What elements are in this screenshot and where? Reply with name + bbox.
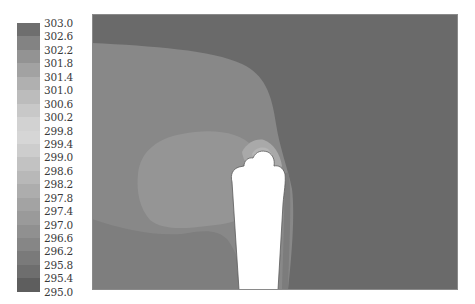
colorbar-tick-label: 297.0 (44, 219, 73, 232)
colorbar-tick-label: 295.0 (44, 286, 73, 299)
colorbar-labels: 303.0302.6302.2301.8301.4301.0300.6300.2… (44, 17, 73, 299)
colorbar-swatch (17, 23, 40, 36)
colorbar-swatch (17, 211, 40, 224)
colorbar-swatch (17, 225, 40, 238)
colorbar-tick-label: 297.8 (44, 192, 73, 205)
colorbar-legend: 303.0302.6302.2301.8301.4301.0300.6300.2… (17, 23, 77, 293)
colorbar-swatch (17, 36, 40, 49)
colorbar (17, 23, 40, 292)
colorbar-swatch (17, 77, 40, 90)
colorbar-swatch (17, 90, 40, 103)
contour-plot (92, 14, 458, 290)
colorbar-tick-label: 303.0 (44, 17, 73, 30)
colorbar-swatch (17, 171, 40, 184)
colorbar-tick-label: 300.2 (44, 111, 73, 124)
colorbar-swatch (17, 184, 40, 197)
colorbar-tick-label: 296.6 (44, 232, 73, 245)
colorbar-swatch (17, 198, 40, 211)
colorbar-swatch (17, 265, 40, 278)
colorbar-swatch (17, 63, 40, 76)
colorbar-swatch (17, 50, 40, 63)
colorbar-tick-label: 295.4 (44, 272, 73, 285)
colorbar-tick-label: 302.2 (44, 44, 73, 57)
colorbar-tick-label: 295.8 (44, 259, 73, 272)
colorbar-tick-label: 301.0 (44, 84, 73, 97)
colorbar-swatch (17, 157, 40, 170)
colorbar-tick-label: 296.2 (44, 245, 73, 258)
colorbar-swatch (17, 251, 40, 264)
colorbar-swatch (17, 131, 40, 144)
colorbar-swatch (17, 238, 40, 251)
colorbar-tick-label: 298.6 (44, 165, 73, 178)
colorbar-tick-label: 300.6 (44, 98, 73, 111)
colorbar-swatch (17, 104, 40, 117)
colorbar-swatch (17, 144, 40, 157)
colorbar-tick-label: 301.4 (44, 71, 73, 84)
colorbar-swatch (17, 278, 40, 291)
colorbar-tick-label: 302.6 (44, 30, 73, 43)
colorbar-tick-label: 301.8 (44, 57, 73, 70)
colorbar-tick-label: 298.2 (44, 178, 73, 191)
colorbar-tick-label: 297.4 (44, 205, 73, 218)
colorbar-swatch (17, 117, 40, 130)
colorbar-tick-label: 299.0 (44, 151, 73, 164)
probe-slot (231, 151, 285, 290)
colorbar-tick-label: 299.4 (44, 138, 73, 151)
colorbar-tick-label: 299.8 (44, 125, 73, 138)
